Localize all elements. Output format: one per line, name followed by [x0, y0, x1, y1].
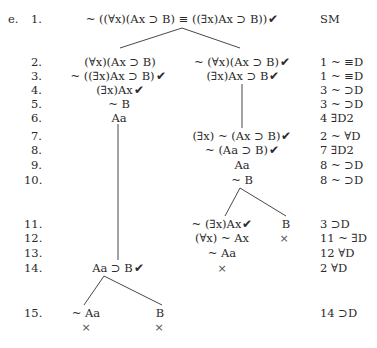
formula-left-b: B: [156, 307, 164, 320]
closed-branch-icon: ×: [81, 322, 90, 334]
branch-line-right-b: [240, 188, 286, 216]
justification: 8 ~ ⊃D: [320, 174, 363, 187]
line-number: 1.: [24, 13, 42, 26]
formula-left: (∃x)Ax✔: [96, 84, 144, 97]
formula-left: Aa ⊃ B✔: [92, 262, 144, 275]
check-mark-icon: ✔: [134, 84, 144, 97]
line-number: 8.: [24, 144, 42, 157]
justification: 3 ⊃D: [320, 218, 350, 231]
line-number: 11.: [24, 218, 42, 231]
line-number: 12.: [24, 232, 42, 245]
formula-left: ~ ((∃x)Ax ⊃ B)✔: [70, 70, 165, 83]
justification: 7 ∃D2: [320, 144, 354, 157]
justification: 14 ⊃D: [320, 307, 357, 320]
branch-line-root-left: [120, 28, 182, 48]
check-mark-icon: ✔: [268, 13, 278, 26]
branch-line-right-a: [225, 188, 240, 216]
justification: 8 ~ ⊃D: [320, 159, 363, 172]
justification: 3 ~ ⊃D: [320, 98, 363, 111]
check-mark-icon: ✔: [242, 218, 252, 231]
justification: 2 ∀D: [320, 262, 347, 275]
formula-right: Aa: [234, 159, 249, 172]
line-number: 14.: [24, 262, 42, 275]
closed-branch-icon: ×: [217, 263, 226, 275]
line-number: 10.: [24, 174, 42, 187]
check-mark-icon: ✔: [134, 262, 144, 275]
justification: 1 ~ ≡D: [320, 70, 363, 83]
justification: 4 ∃D2: [320, 112, 354, 125]
line-number: 7.: [24, 130, 42, 143]
line-number: 5.: [24, 98, 42, 111]
justification: 3 ~ ⊃D: [320, 84, 363, 97]
formula-right-a: ~ Aa: [208, 247, 236, 260]
justification: 11 ~ ∃D: [320, 232, 367, 245]
justification: SM: [320, 13, 340, 26]
formula-right: (∃x) ~ (Ax ⊃ B)✔: [193, 130, 292, 143]
line-number: 3.: [24, 70, 42, 83]
exercise-label: e.: [8, 13, 18, 26]
line-number: 9.: [24, 159, 42, 172]
formula-right: ~ (Aa ⊃ B)✔: [205, 144, 279, 157]
formula-right-b: B: [282, 218, 290, 231]
formula-right: (∃x)Ax ⊃ B✔: [207, 70, 280, 83]
closed-branch-icon: ×: [154, 322, 163, 334]
check-mark-icon: ✔: [269, 144, 279, 157]
line-number: 2.: [24, 56, 42, 69]
check-mark-icon: ✔: [280, 56, 290, 69]
branch-line-bottom-left: [84, 276, 104, 305]
formula-left-a: ~ Aa: [72, 307, 100, 320]
formula-right: ~ B: [231, 174, 253, 187]
line-number: 15.: [24, 307, 42, 320]
line-number: 4.: [24, 84, 42, 97]
line-number: 13.: [24, 247, 42, 260]
check-mark-icon: ✔: [281, 130, 291, 143]
check-mark-icon: ✔: [269, 70, 279, 83]
justification: 12 ∀D: [320, 247, 354, 260]
formula-left: ~ B: [108, 98, 130, 111]
formula-left: Aa: [111, 112, 126, 125]
formula-right-a: (∀x) ~ Ax: [195, 232, 249, 245]
formula-root: ~ ((∀x)(Ax ⊃ B) ≡ ((∃x)Ax ⊃ B))✔: [86, 13, 279, 26]
justification: 1 ~ ≡D: [320, 56, 363, 69]
closed-branch-icon: ×: [279, 233, 288, 245]
justification: 2 ~ ∀D: [320, 130, 360, 143]
line-number: 6.: [24, 112, 42, 125]
branch-line-root-right: [182, 28, 240, 48]
formula-left: (∀x)(Ax ⊃ B): [84, 56, 156, 69]
formula-right-a: ~ (∃x)Ax✔: [192, 218, 253, 231]
branch-line-bottom-right: [104, 276, 162, 305]
check-mark-icon: ✔: [156, 70, 166, 83]
formula-right: ~ (∀x)(Ax ⊃ B)✔: [194, 56, 290, 69]
